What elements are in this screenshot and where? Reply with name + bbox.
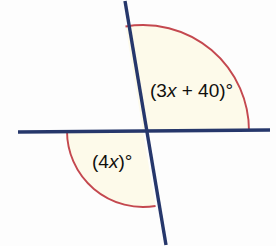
geometry-canvas: (3x + 40)° (4x)° (0, 0, 276, 246)
angle-label-upper-right: (3x + 40)° (150, 80, 233, 101)
angle-label-lower-left: (4x)° (92, 151, 132, 172)
geometry-figure: (3x + 40)° (4x)° (0, 0, 276, 246)
horizontal-line (18, 130, 270, 132)
